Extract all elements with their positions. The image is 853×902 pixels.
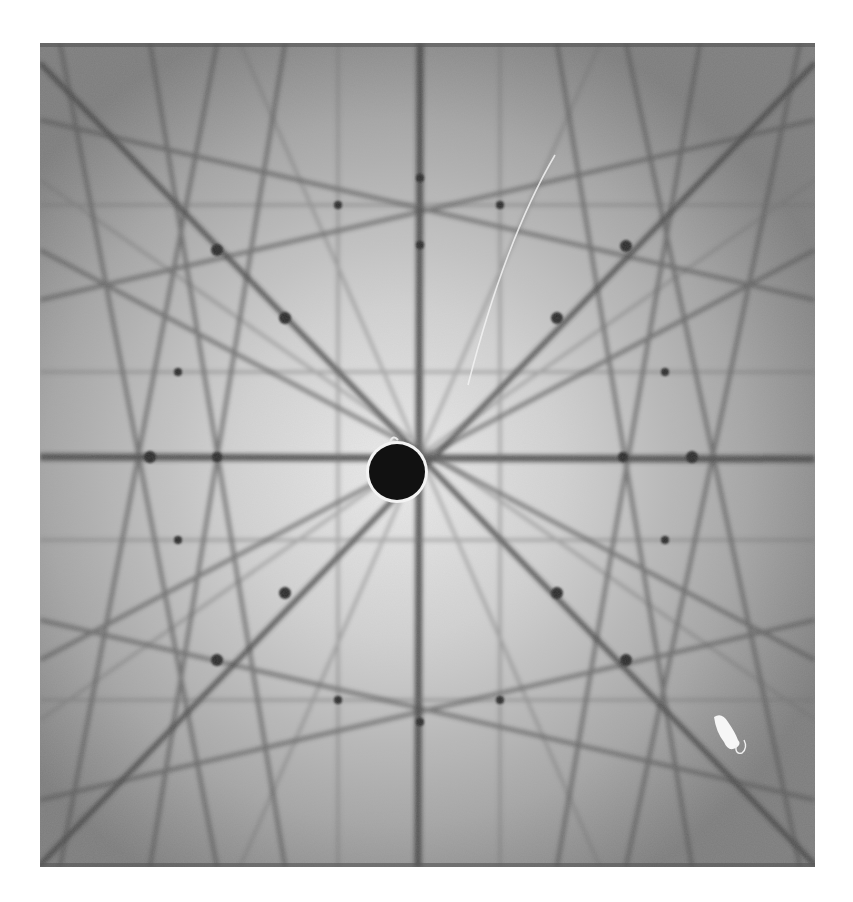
photographic-plate bbox=[40, 43, 815, 867]
diffraction-photograph bbox=[0, 0, 853, 902]
film-grain bbox=[40, 43, 815, 867]
